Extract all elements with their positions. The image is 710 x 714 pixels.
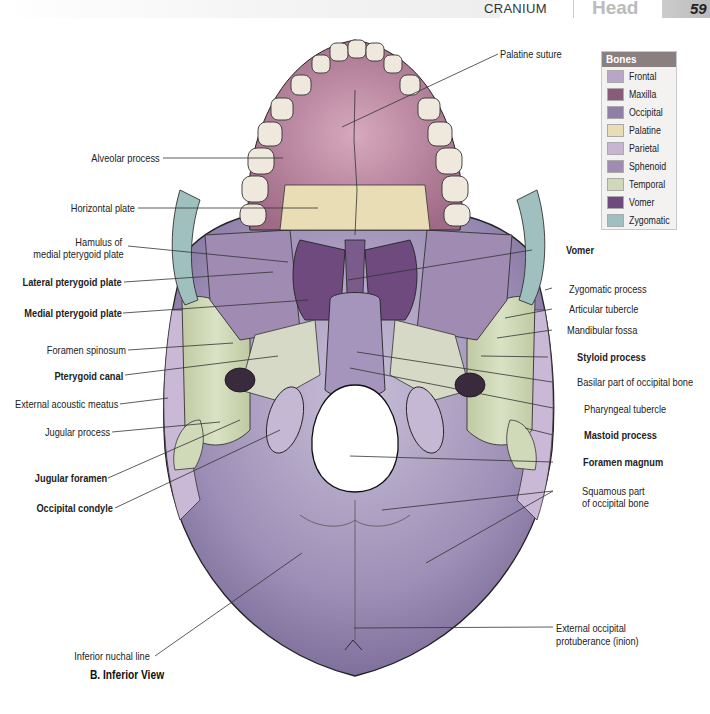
legend-label: Occipital <box>629 107 663 118</box>
foramen-magnum <box>312 385 398 492</box>
label-pterygoid-canal: Pterygoid canal <box>54 370 123 382</box>
label-vomer: Vomer <box>566 244 594 256</box>
palatine-horizontal-plate <box>280 185 430 230</box>
label-inferior-nuchal-line: Inferior nuchal line <box>74 650 150 662</box>
legend-label: Palatine <box>629 125 661 136</box>
swatch-parietal <box>607 142 624 155</box>
legend-label: Parietal <box>629 143 659 154</box>
label-mandibular-fossa: Mandibular fossa <box>567 324 637 336</box>
label-foramen-magnum: Foramen magnum <box>583 456 663 468</box>
legend-item-parietal: Parietal <box>602 139 676 157</box>
label-articular-tubercle: Articular tubercle <box>569 303 638 315</box>
legend-item-palatine: Palatine <box>602 121 676 139</box>
swatch-zygomatic <box>607 214 624 227</box>
label-hamulus-line2: medial pterygoid plate <box>34 248 124 260</box>
label-styloid-process: Styloid process <box>577 351 646 363</box>
legend-title: Bones <box>602 52 676 67</box>
legend-label: Maxilla <box>629 89 656 100</box>
label-external-occipital-line2: protuberance (inion) <box>556 635 639 647</box>
swatch-palatine <box>607 124 624 137</box>
legend-item-zygomatic: Zygomatic <box>602 211 676 229</box>
label-mastoid-process: Mastoid process <box>584 429 657 441</box>
label-external-acoustic-meatus: External acoustic meatus <box>15 398 118 410</box>
figure-caption: B. Inferior View <box>90 668 164 682</box>
label-medial-pterygoid-plate: Medial pterygoid plate <box>24 307 122 319</box>
label-hamulus-line1: Hamulus of <box>75 236 122 248</box>
swatch-temporal <box>607 178 624 191</box>
label-horizontal-plate: Horizontal plate <box>71 202 135 214</box>
legend-item-occipital: Occipital <box>602 103 676 121</box>
label-alveolar-process: Alveolar process <box>92 152 160 164</box>
bones-legend: Bones Frontal Maxilla Occipital Palatine… <box>601 51 677 230</box>
label-occipital-condyle: Occipital condyle <box>36 502 113 514</box>
label-squamous-part-line1: Squamous part <box>582 485 645 497</box>
legend-label: Vomer <box>629 197 654 208</box>
legend-label: Zygomatic <box>629 215 670 226</box>
swatch-maxilla <box>607 88 624 101</box>
legend-item-sphenoid: Sphenoid <box>602 157 676 175</box>
label-zygomatic-process: Zygomatic process <box>569 283 647 295</box>
legend-label: Frontal <box>629 71 656 82</box>
legend-item-vomer: Vomer <box>602 193 676 211</box>
legend-label: Temporal <box>629 179 665 190</box>
legend-label: Sphenoid <box>629 161 666 172</box>
label-jugular-foramen: Jugular foramen <box>35 472 107 484</box>
label-pharyngeal-tubercle: Pharyngeal tubercle <box>584 403 666 415</box>
label-lateral-pterygoid-plate: Lateral pterygoid plate <box>23 276 122 288</box>
legend-item-temporal: Temporal <box>602 175 676 193</box>
swatch-sphenoid <box>607 160 624 173</box>
label-foramen-spinosum: Foramen spinosum <box>47 344 126 356</box>
legend-item-frontal: Frontal <box>602 67 676 85</box>
label-squamous-part-line2: of occipital bone <box>582 497 649 509</box>
swatch-frontal <box>607 70 624 83</box>
legend-item-maxilla: Maxilla <box>602 85 676 103</box>
swatch-occipital <box>607 106 624 119</box>
label-jugular-process: Jugular process <box>45 426 110 438</box>
label-basilar-part-occipital: Basilar part of occipital bone <box>577 376 693 388</box>
swatch-vomer <box>607 196 624 209</box>
label-external-occipital-line1: External occipital <box>556 622 626 634</box>
label-palatine-suture: Palatine suture <box>500 48 562 60</box>
